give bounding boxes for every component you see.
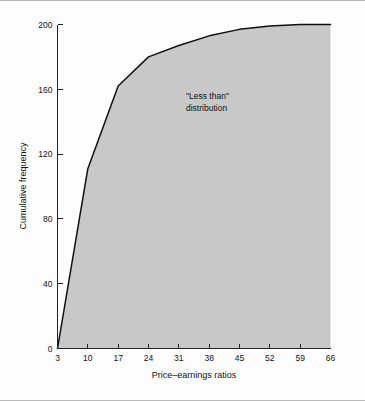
y-axis-ticks: [58, 25, 63, 349]
cumulative-frequency-chart: 04080120160200 3101724313845525966 Price…: [0, 1, 365, 401]
x-tick-label: 66: [326, 353, 336, 363]
x-tick-label: 52: [265, 353, 275, 363]
x-axis-tick-labels: 3101724313845525966: [55, 353, 335, 363]
x-tick-label: 17: [113, 353, 123, 363]
annotation-line-2: distribution: [186, 103, 227, 113]
x-tick-label: 24: [144, 353, 154, 363]
x-axis-title: Price–earnings ratios: [152, 370, 237, 380]
x-tick-label: 45: [235, 353, 245, 363]
y-tick-label: 0: [48, 344, 53, 354]
y-tick-label: 40: [43, 279, 53, 289]
y-tick-label: 160: [38, 85, 52, 95]
x-tick-label: 31: [174, 353, 184, 363]
y-axis-title: Cumulative frequency: [18, 142, 28, 230]
figure-frame: 04080120160200 3101724313845525966 Price…: [0, 0, 365, 401]
annotation-line-1: "Less than": [186, 91, 229, 101]
y-axis-tick-labels: 04080120160200: [38, 20, 52, 354]
x-tick-label: 3: [55, 353, 60, 363]
x-tick-label: 38: [204, 353, 214, 363]
x-tick-label: 59: [295, 353, 305, 363]
y-tick-label: 200: [38, 20, 52, 30]
ogive-shaded-area: [58, 25, 331, 349]
x-tick-label: 10: [83, 353, 93, 363]
y-tick-label: 80: [43, 214, 53, 224]
y-tick-label: 120: [38, 149, 52, 159]
